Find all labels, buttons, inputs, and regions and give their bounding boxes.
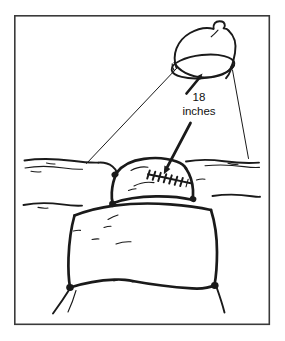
drape-edge-left-to-torso	[99, 163, 117, 173]
lower-body-top-contour	[75, 204, 212, 216]
beam-line-right	[233, 70, 249, 159]
drape-fold-hang-left-2	[68, 291, 76, 313]
suture-1	[147, 170, 150, 178]
lower-crease-d	[92, 239, 99, 240]
illustration-border	[15, 16, 269, 325]
abdomen-top-contour	[117, 158, 186, 173]
abdomen-bottom-contour	[113, 196, 192, 203]
drape-fold-hang-right	[217, 287, 225, 313]
drape-line-mid-left	[24, 203, 83, 206]
drape-fold-tick-b	[31, 171, 41, 172]
drape-line-upper-left	[25, 159, 99, 163]
lower-crease-c	[104, 226, 111, 227]
skin-crease-b	[134, 182, 154, 186]
surgical-lamp-distance-figure: 18 inches	[0, 0, 285, 341]
lamp-knob-crease	[211, 30, 218, 37]
drape-fold-tick-d	[38, 207, 48, 208]
suture-2	[153, 172, 156, 180]
sutured-incision	[147, 170, 191, 186]
surgical-drape-sheets	[24, 159, 261, 208]
callout-line-1: 18	[193, 91, 206, 103]
light-beam-cone	[87, 69, 249, 164]
lower-body-left-edge	[68, 216, 74, 288]
drape-fold-hang-left	[53, 289, 70, 314]
lamp-rim-inner	[175, 63, 232, 78]
skin-crease-d	[197, 179, 206, 180]
skin-crease-c	[129, 189, 137, 191]
callout-line-2: inches	[182, 105, 215, 117]
lamp-shade-left	[175, 28, 214, 68]
drape-line-upper-right	[186, 160, 259, 163]
drape-fold-tick-a	[47, 163, 56, 164]
drape-line-upper-right-2	[205, 165, 260, 168]
suture-6	[175, 177, 178, 185]
skin-crease-a	[131, 167, 148, 171]
beam-line-left	[87, 69, 177, 164]
lower-crease-e	[116, 242, 131, 244]
suture-4	[164, 174, 167, 182]
illustration-canvas: 18 inches	[0, 0, 285, 341]
lamp-knob-icon	[213, 21, 228, 30]
draped-lower-body	[53, 204, 225, 314]
suture-7	[180, 178, 183, 186]
drape-line-upper-left-2	[25, 166, 83, 169]
suture-5	[169, 175, 172, 183]
lower-crease-b	[108, 215, 118, 220]
suture-3	[158, 173, 161, 181]
ink-blot-right-mid	[189, 195, 197, 203]
lower-body-bottom-contour	[70, 279, 215, 288]
distance-callout: 18 inches	[182, 91, 215, 117]
drape-line-mid-right	[213, 195, 261, 197]
surgical-lamp	[170, 21, 235, 81]
lower-crease-a	[74, 230, 81, 231]
lower-body-right-edge	[211, 210, 217, 285]
